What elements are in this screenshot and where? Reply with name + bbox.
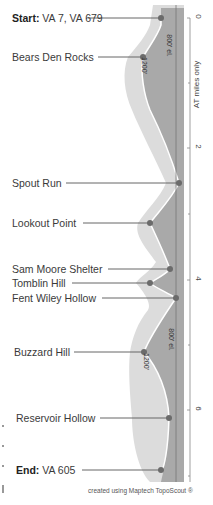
waypoint-label-fent-wiley-hollow: Fent Wiley Hollow (12, 292, 96, 304)
elevation-label-800-top: 800' el. (166, 34, 173, 56)
waypoint-label-sam-moore-shelter: Sam Moore Shelter (12, 263, 102, 275)
axis-title: AT miles only (192, 61, 201, 108)
elevation-profile (0, 0, 213, 505)
credit-text: created using Maptech TopoScout ® (88, 487, 193, 494)
axis-tick-2: 2 (194, 144, 203, 148)
waypoint-label-end: End: VA 605 (16, 464, 75, 476)
axis-tick-4: 4 (194, 276, 203, 280)
axis-tick-0: 0 (194, 14, 203, 18)
waypoint-label-buzzard-hill: Buzzard Hill (14, 346, 70, 358)
edge-mark (2, 465, 4, 467)
axis-tick-6: 6 (194, 406, 203, 410)
waypoint-label-bears-den-rocks: Bears Den Rocks (12, 51, 94, 63)
waypoint-label-reservoir-hollow: Reservoir Hollow (16, 412, 95, 424)
elevation-label-1200-top: 1200' (141, 57, 148, 74)
waypoint-label-spout-run: Spout Run (12, 177, 62, 189)
elevation-label-800-bottom: 800' el. (168, 328, 175, 350)
waypoint-label-tomblin-hill: Tomblin Hill (12, 277, 66, 289)
waypoint-label-start: Start: VA 7, VA 679 (12, 12, 103, 24)
axis-ticks (187, 18, 190, 476)
edge-mark (2, 485, 4, 493)
waypoint-label-lookout-point: Lookout Point (12, 217, 76, 229)
elevation-label-1200-bottom: 1200' (143, 353, 150, 370)
edge-mark (2, 445, 4, 447)
edge-mark (2, 425, 4, 427)
